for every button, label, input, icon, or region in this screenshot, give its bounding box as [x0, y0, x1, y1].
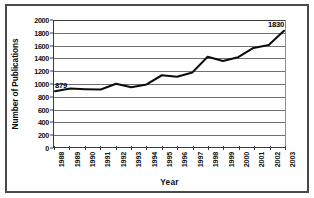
- x-tick-mark: [254, 146, 255, 150]
- x-tick-mark: [270, 146, 271, 150]
- x-axis-title: Year: [53, 177, 286, 187]
- x-tick-label: 1996: [180, 152, 189, 167]
- x-tick-label: 1988: [57, 152, 66, 167]
- y-tick-label: 200: [0, 131, 49, 140]
- x-tick-mark: [54, 146, 55, 150]
- x-tick-label: 1995: [165, 152, 174, 167]
- y-tick-label: 1600: [0, 41, 49, 50]
- x-tick-label: 1990: [88, 152, 97, 167]
- x-tick-mark: [239, 146, 240, 150]
- x-tick-label: 1994: [150, 152, 159, 167]
- x-tick-mark: [285, 146, 286, 150]
- x-tick-label: 1998: [211, 152, 220, 167]
- series-polyline: [55, 31, 284, 91]
- x-tick-mark: [223, 146, 224, 150]
- plot-area: [53, 20, 286, 148]
- x-tick-label: 1991: [103, 152, 112, 167]
- y-tick-label: 1400: [0, 54, 49, 63]
- x-tick-label: 1997: [196, 152, 205, 167]
- y-tick-label: 400: [0, 118, 49, 127]
- x-tick-label: 2003: [288, 152, 297, 167]
- x-tick-label: 1992: [119, 152, 128, 167]
- y-tick-label: 600: [0, 105, 49, 114]
- x-tick-label: 1989: [73, 152, 82, 167]
- y-tick-label: 800: [0, 92, 49, 101]
- y-tick-label: 2000: [0, 16, 49, 25]
- line-series: [54, 20, 285, 147]
- x-tick-mark: [162, 146, 163, 150]
- x-tick-label: 2002: [273, 152, 282, 167]
- x-tick-mark: [146, 146, 147, 150]
- y-tick-label: 1800: [0, 28, 49, 37]
- y-tick-label: 0: [0, 144, 49, 153]
- data-point-label: 1830: [268, 20, 284, 29]
- x-tick-mark: [208, 146, 209, 150]
- x-tick-label: 2000: [242, 152, 251, 167]
- y-tick-label: 1200: [0, 67, 49, 76]
- x-tick-mark: [69, 146, 70, 150]
- x-tick-mark: [177, 146, 178, 150]
- x-tick-label: 1999: [227, 152, 236, 167]
- chart-figure: Number of Publications 02004006008001000…: [0, 0, 314, 198]
- data-point-label: 879: [55, 81, 67, 90]
- x-tick-mark: [131, 146, 132, 150]
- x-tick-mark: [116, 146, 117, 150]
- x-tick-mark: [193, 146, 194, 150]
- y-tick-label: 1000: [0, 80, 49, 89]
- x-tick-mark: [85, 146, 86, 150]
- x-tick-label: 1993: [134, 152, 143, 167]
- x-tick-label: 2001: [257, 152, 266, 167]
- x-tick-mark: [100, 146, 101, 150]
